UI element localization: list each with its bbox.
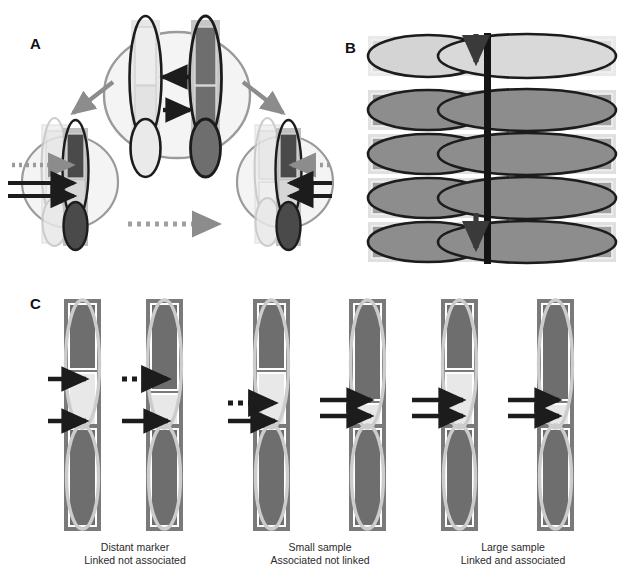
- panel-b-row-4: [368, 177, 616, 219]
- panel-c-chromosome-3a: [412, 299, 478, 531]
- caption-large-sample: Large sample Linked and associated: [428, 541, 598, 567]
- panel-b-row-5: [368, 221, 616, 263]
- parent-chromosome-dark: [190, 16, 222, 177]
- caption-small-sample: Small sample Associated not linked: [235, 541, 405, 567]
- descent-arrow-left: [73, 82, 113, 113]
- panel-c-chromosome-1b: [122, 299, 183, 531]
- panel-c-chromosome-2b: [320, 299, 386, 531]
- panel-b-row-2: [368, 89, 616, 131]
- panel-label-a: A: [30, 36, 41, 51]
- panel-label-c: C: [30, 296, 41, 311]
- figure-canvas: A B C: [0, 0, 625, 581]
- panel-b-row-3: [368, 133, 616, 175]
- caption-distant-marker-line2: Linked not associated: [50, 554, 220, 567]
- panel-c-chromosome-2a: [228, 299, 290, 531]
- panel-b-row-1: [368, 34, 616, 78]
- offspring-right-circle: [237, 136, 333, 228]
- panel-c-chromosome-1a: [48, 299, 101, 531]
- parent-circle: [104, 32, 250, 158]
- offspring-left-circle: [22, 136, 118, 228]
- descent-arrow-right: [243, 82, 283, 113]
- panel-b-group: [368, 33, 616, 264]
- panel-c-group: [48, 299, 574, 531]
- diagram-layer: [0, 0, 625, 581]
- parent-chromosome-light: [130, 16, 162, 177]
- offspring-right-group: [237, 118, 333, 250]
- caption-large-sample-line1: Large sample: [428, 541, 598, 554]
- offspring-right-chromosome-dark: [276, 120, 302, 250]
- caption-small-sample-line1: Small sample: [235, 541, 405, 554]
- offspring-left-chromosome-pale: [42, 118, 68, 246]
- caption-distant-marker-line1: Distant marker: [50, 541, 220, 554]
- caption-large-sample-line2: Linked and associated: [428, 554, 598, 567]
- offspring-right-chromosome-pale: [255, 118, 281, 246]
- panel-label-b: B: [345, 40, 356, 55]
- caption-distant-marker: Distant marker Linked not associated: [50, 541, 220, 567]
- caption-small-sample-line2: Associated not linked: [235, 554, 405, 567]
- offspring-left-chromosome-dark: [63, 120, 89, 250]
- panel-a-group: [8, 16, 333, 250]
- panel-b-locus-bar: [484, 33, 491, 264]
- offspring-left-group: [8, 118, 118, 250]
- panel-c-chromosome-3b: [508, 299, 574, 531]
